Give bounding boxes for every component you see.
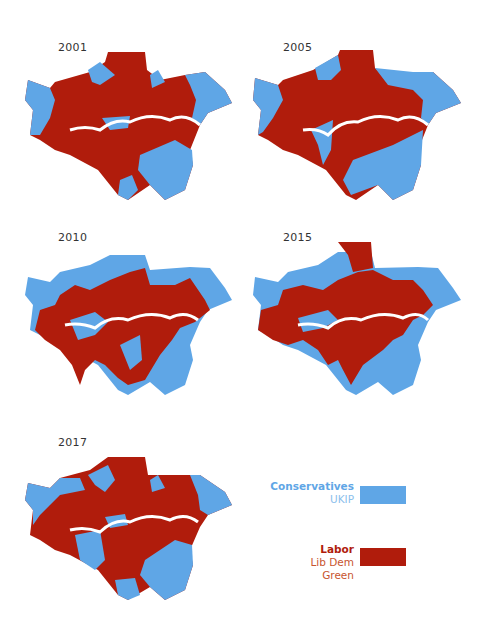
legend-conservatives-title: Conservatives <box>270 480 354 493</box>
legend-labor-title: Labor <box>270 543 354 556</box>
legend-blue-swatch <box>360 486 406 504</box>
legend-green-label: Green <box>270 569 354 582</box>
london-map-2017 <box>0 420 250 637</box>
map-panel-2001: 2001 <box>0 0 243 210</box>
map-panel-2015: 2015 <box>243 210 486 420</box>
legend-red-labels: Labor Lib Dem Green <box>270 543 354 582</box>
legend-red-swatch <box>360 548 406 566</box>
london-map-2001 <box>0 0 243 210</box>
legend-ukip-label: UKIP <box>270 493 354 506</box>
map-panel-2005: 2005 <box>243 0 486 210</box>
london-map-2005 <box>243 0 486 210</box>
map-panel-2017: 2017 <box>0 420 250 637</box>
legend-libdem-label: Lib Dem <box>270 556 354 569</box>
legend-blue-labels: Conservatives UKIP <box>270 480 354 506</box>
london-map-2010 <box>0 210 243 420</box>
map-panel-2010: 2010 <box>0 210 243 420</box>
london-map-2015 <box>243 210 486 420</box>
